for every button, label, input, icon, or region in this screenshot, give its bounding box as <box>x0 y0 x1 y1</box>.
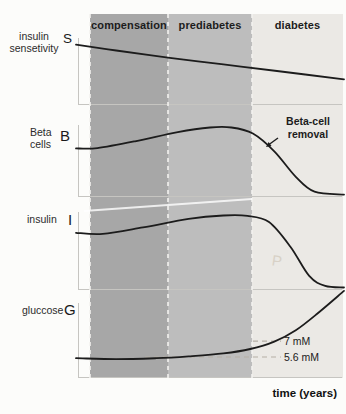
axis-letter-I: I <box>68 211 72 228</box>
panel-label-glucose: gluccose <box>22 304 63 316</box>
diabetes-progression-figure: compensation prediabetes diabetes insuli… <box>0 0 346 414</box>
panel-label-beta-cells: Beta cells <box>30 126 52 150</box>
beta-cell-removal-annotation: Beta-cell removal <box>274 115 342 141</box>
panel-label-line: insulin <box>4 30 64 42</box>
panel-label-line: insulin <box>27 213 57 225</box>
time-axis-label: time (years) <box>272 387 337 399</box>
glucose-5.6mM-label: 5.6 mM <box>284 351 319 363</box>
panel-label-insulin-sensitivity: insulin sensetivity <box>4 30 64 54</box>
annotation-line: removal <box>274 128 342 141</box>
panel-label-line: Beta <box>30 126 52 138</box>
glucose-7mM-label: 7 mM <box>284 335 310 347</box>
axis-letter-B: B <box>60 127 70 144</box>
axis-letter-S: S <box>63 31 72 46</box>
phase-label-prediabetes: prediabetes <box>168 19 252 31</box>
axis-letter-G: G <box>64 301 76 318</box>
panel-insulin <box>78 212 342 290</box>
panel-label-line: cells <box>30 138 52 150</box>
panel-label-line: sensetivity <box>4 42 64 54</box>
panel-label-line: gluccose <box>22 304 63 316</box>
panel-insulin-sensitivity <box>78 38 342 105</box>
phase-label-compensation: compensation <box>90 19 168 31</box>
annotation-line: Beta-cell <box>274 115 342 128</box>
panel-label-insulin: insulin <box>27 213 57 225</box>
phase-label-diabetes: diabetes <box>252 19 343 31</box>
